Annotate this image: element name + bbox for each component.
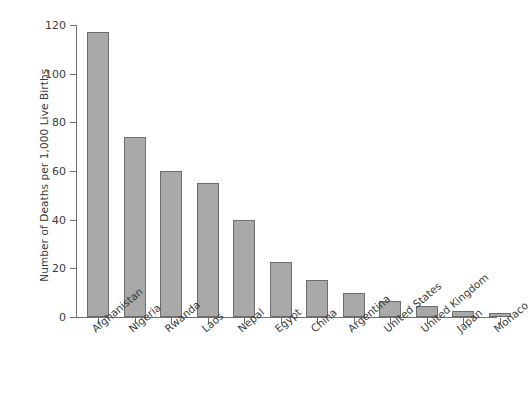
bar	[160, 171, 182, 317]
bar	[233, 220, 255, 317]
bar	[197, 183, 219, 317]
y-axis-tick	[70, 268, 77, 269]
y-axis-tick	[70, 317, 77, 318]
y-axis-tick-label: 40	[16, 220, 66, 221]
y-axis-tick-label: 20	[16, 268, 66, 269]
y-axis-tick-label: 60	[16, 171, 66, 172]
y-axis-title: Number of Deaths per 1,000 Live Births	[39, 45, 50, 305]
bars-container	[77, 25, 497, 317]
bar	[270, 262, 292, 317]
y-axis-tick-label: 120	[16, 25, 66, 26]
y-axis-tick-label: 100	[16, 74, 66, 75]
y-axis-tick	[70, 74, 77, 75]
bar	[87, 32, 109, 317]
y-axis-tick	[70, 122, 77, 123]
y-axis-tick-label: 80	[16, 122, 66, 123]
y-axis-tick	[70, 220, 77, 221]
y-axis-tick-label: 0	[16, 317, 66, 318]
y-axis-tick	[70, 25, 77, 26]
y-axis-tick	[70, 171, 77, 172]
